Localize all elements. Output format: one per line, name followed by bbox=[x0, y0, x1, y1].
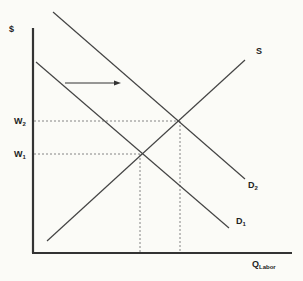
shift-arrow-icon bbox=[65, 81, 121, 86]
labor-market-diagram: $ S D2 D1 W2 W1 QLabor bbox=[0, 0, 303, 281]
d1-label: D1 bbox=[236, 216, 247, 227]
supply-label: S bbox=[256, 46, 262, 56]
w2-label: W2 bbox=[14, 116, 27, 127]
y-axis-label: $ bbox=[9, 24, 14, 34]
x-axis-label: QLabor bbox=[252, 259, 276, 270]
demand-curve-d1 bbox=[36, 62, 229, 228]
supply-curve bbox=[47, 60, 245, 241]
d2-label: D2 bbox=[248, 180, 259, 191]
demand-curve-d2 bbox=[53, 12, 245, 179]
w1-label: W1 bbox=[14, 149, 27, 160]
